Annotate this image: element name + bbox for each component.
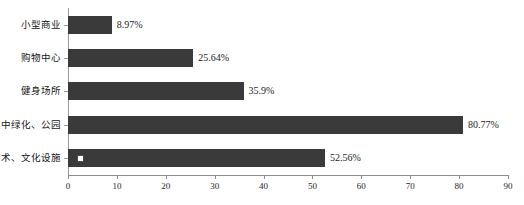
x-axis-tick xyxy=(312,175,313,179)
bar-row: 小型商业8.97% xyxy=(68,8,508,41)
category-label: 艺术、文化设施 xyxy=(0,151,61,165)
x-axis-tick-label: 20 xyxy=(161,181,170,192)
x-axis-tick xyxy=(68,175,69,179)
bar-rows: 小型商业8.97%购物中心25.64%健身场所35.9%集中绿化、公园80.77… xyxy=(68,8,508,175)
x-axis-tick-label: 30 xyxy=(210,181,219,192)
x-axis-tick xyxy=(508,175,509,179)
bar-row: 艺术、文化设施52.56% xyxy=(68,142,508,175)
x-axis-tick-label: 70 xyxy=(406,181,415,192)
x-axis-tick xyxy=(215,175,216,179)
x-axis-tick-label: 60 xyxy=(357,181,366,192)
bar xyxy=(68,82,244,100)
x-axis-tick xyxy=(166,175,167,179)
x-axis-tick xyxy=(459,175,460,179)
bar-row: 健身场所35.9% xyxy=(68,75,508,108)
category-label: 小型商业 xyxy=(21,18,61,32)
plot-area: 小型商业8.97%购物中心25.64%健身场所35.9%集中绿化、公园80.77… xyxy=(68,8,508,175)
x-axis-tick xyxy=(117,175,118,179)
bar-value-label: 8.97% xyxy=(117,19,143,31)
point-marker-icon xyxy=(77,155,84,162)
bar-value-label: 25.64% xyxy=(198,52,229,64)
x-axis-tick-label: 80 xyxy=(455,181,464,192)
bar-value-label: 52.56% xyxy=(330,152,361,164)
x-axis-tick xyxy=(410,175,411,179)
category-label: 健身场所 xyxy=(21,84,61,98)
x-axis-tick xyxy=(361,175,362,179)
x-axis-tick xyxy=(264,175,265,179)
x-axis-tick-label: 50 xyxy=(308,181,317,192)
horizontal-bar-chart: 小型商业8.97%购物中心25.64%健身场所35.9%集中绿化、公园80.77… xyxy=(0,0,524,205)
bar-value-label: 35.9% xyxy=(249,85,275,97)
bar xyxy=(68,149,325,167)
x-axis-tick-label: 0 xyxy=(66,181,71,192)
bar-value-label: 80.77% xyxy=(468,119,499,131)
bar-row: 集中绿化、公园80.77% xyxy=(68,108,508,141)
x-axis-tick-label: 90 xyxy=(504,181,513,192)
bar xyxy=(68,116,463,134)
x-axis-tick-label: 10 xyxy=(112,181,121,192)
x-axis-line xyxy=(68,175,508,176)
bar xyxy=(68,16,112,34)
category-label: 购物中心 xyxy=(21,51,61,65)
category-label: 集中绿化、公园 xyxy=(0,118,61,132)
bar xyxy=(68,49,193,67)
x-axis-tick-label: 40 xyxy=(259,181,268,192)
bar-row: 购物中心25.64% xyxy=(68,41,508,74)
